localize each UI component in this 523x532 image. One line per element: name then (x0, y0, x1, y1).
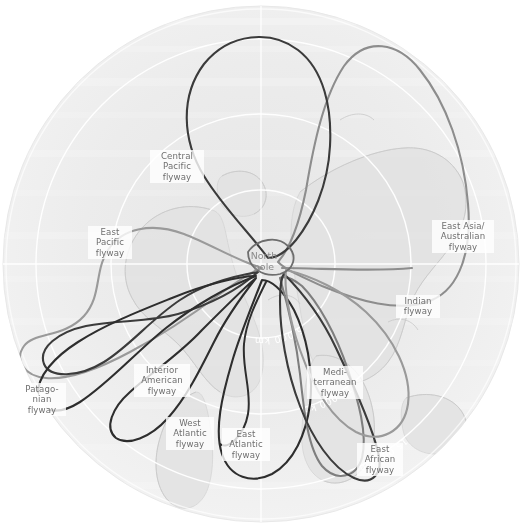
flyway-label-mediterranean: Medi- terranean flyway (307, 366, 363, 399)
north-pole-label: North pole (238, 251, 290, 272)
flyway-label-east-asia-australian: East Asia/ Australian flyway (432, 220, 494, 253)
flyway-label-east-pacific: East Pacific flyway (88, 226, 132, 259)
flyway-label-central-pacific: Central Pacific flyway (150, 150, 204, 183)
flyway-label-east-african: East African flyway (357, 443, 403, 476)
flyway-label-interior-american: Interior American flyway (134, 364, 190, 397)
flyway-label-east-atlantic: East Atlantic flyway (222, 428, 270, 461)
flyway-label-patagonian: Patago- nian flyway (18, 383, 66, 416)
flyway-label-indian: Indian flyway (396, 295, 440, 318)
flyway-label-west-atlantic: West Atlantic flyway (166, 417, 214, 450)
flyway-map: 5 000 km 10 000 km 15 000 km (0, 0, 523, 532)
